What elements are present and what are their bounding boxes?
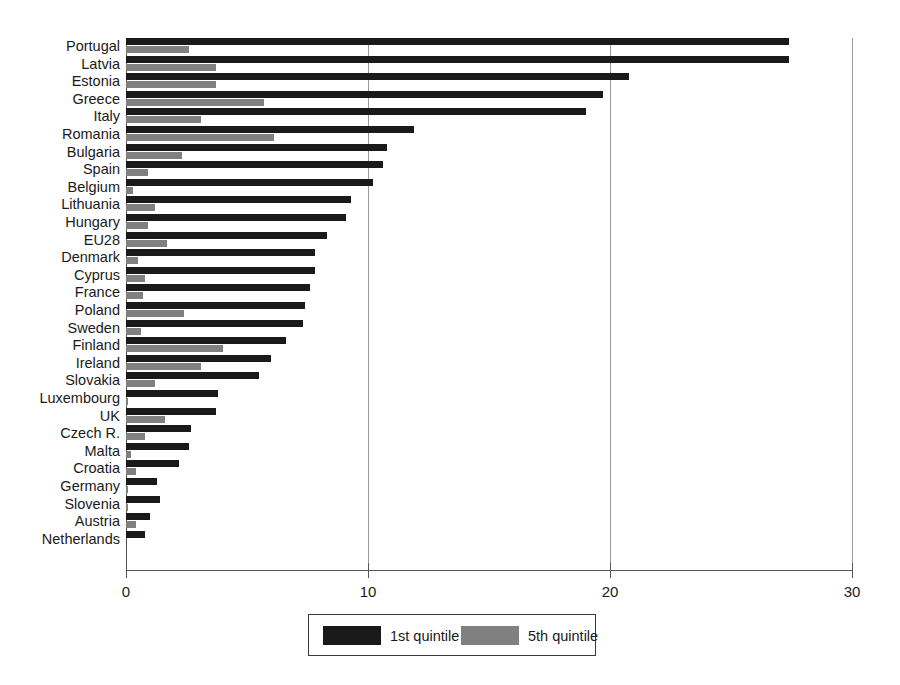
category-label: Croatia	[73, 461, 120, 475]
bar-5th-quintile	[126, 134, 274, 141]
bar-row	[126, 108, 852, 126]
bar-row	[126, 496, 852, 514]
bar-row	[126, 390, 852, 408]
bar-row	[126, 408, 852, 426]
category-label: Belgium	[68, 180, 120, 194]
bar-1st-quintile	[126, 73, 629, 80]
bar-1st-quintile	[126, 425, 191, 432]
bar-5th-quintile	[126, 116, 201, 123]
bar-row	[126, 144, 852, 162]
bar-5th-quintile	[126, 222, 148, 229]
bar-1st-quintile	[126, 144, 387, 151]
bar-row	[126, 179, 852, 197]
category-label: Poland	[75, 303, 120, 317]
bar-1st-quintile	[126, 214, 346, 221]
category-label: Austria	[75, 514, 120, 528]
bar-5th-quintile	[126, 416, 165, 423]
bar-5th-quintile	[126, 521, 136, 528]
gridline-30	[852, 38, 853, 570]
bar-row	[126, 513, 852, 531]
bar-5th-quintile	[126, 486, 128, 493]
bar-1st-quintile	[126, 531, 145, 538]
bar-1st-quintile	[126, 267, 315, 274]
legend-entry: 5th quintile	[461, 626, 598, 645]
bar-5th-quintile	[126, 152, 182, 159]
bar-5th-quintile	[126, 468, 136, 475]
category-label: Spain	[83, 162, 120, 176]
category-label: Finland	[72, 338, 120, 352]
bar-row	[126, 56, 852, 74]
category-label: Portugal	[66, 39, 120, 53]
bar-5th-quintile	[126, 451, 131, 458]
category-label: France	[75, 285, 120, 299]
category-label: Denmark	[61, 250, 120, 264]
legend-swatch	[461, 626, 519, 645]
bar-row	[126, 478, 852, 496]
bar-5th-quintile	[126, 275, 145, 282]
bar-row	[126, 91, 852, 109]
bar-row	[126, 267, 852, 285]
bar-row	[126, 460, 852, 478]
bar-1st-quintile	[126, 91, 603, 98]
bar-5th-quintile	[126, 363, 201, 370]
x-tick-label: 0	[122, 583, 130, 600]
category-label: Slovenia	[64, 497, 120, 511]
bar-5th-quintile	[126, 292, 143, 299]
plot-area	[126, 38, 852, 570]
bar-row	[126, 73, 852, 91]
bar-row	[126, 284, 852, 302]
bar-5th-quintile	[126, 398, 128, 405]
legend-label: 5th quintile	[528, 628, 598, 644]
category-label: UK	[100, 409, 120, 423]
x-tick-mark	[368, 563, 369, 578]
category-label: Czech R.	[60, 426, 120, 440]
x-tick-label: 30	[844, 583, 861, 600]
bar-5th-quintile	[126, 64, 216, 71]
bar-1st-quintile	[126, 478, 157, 485]
x-tick-mark	[126, 563, 127, 578]
bar-1st-quintile	[126, 372, 259, 379]
legend-entry: 1st quintile	[323, 626, 459, 645]
bar-row	[126, 196, 852, 214]
bar-1st-quintile	[126, 408, 216, 415]
category-label: Sweden	[68, 321, 120, 335]
bar-5th-quintile	[126, 310, 184, 317]
x-tick-label: 10	[360, 583, 377, 600]
category-label: Greece	[72, 92, 120, 106]
bar-row	[126, 38, 852, 56]
bar-5th-quintile	[126, 99, 264, 106]
bar-row	[126, 126, 852, 144]
bar-1st-quintile	[126, 443, 189, 450]
category-label: EU28	[84, 233, 120, 247]
category-label: Cyprus	[74, 268, 120, 282]
bar-row	[126, 214, 852, 232]
category-label: Luxembourg	[39, 391, 120, 405]
legend-swatch	[323, 626, 381, 645]
bar-1st-quintile	[126, 126, 414, 133]
x-tick-label: 20	[602, 583, 619, 600]
category-label: Bulgaria	[67, 145, 120, 159]
bar-5th-quintile	[126, 46, 189, 53]
bar-5th-quintile	[126, 433, 145, 440]
bar-1st-quintile	[126, 196, 351, 203]
bar-1st-quintile	[126, 179, 373, 186]
bar-1st-quintile	[126, 161, 383, 168]
bar-row	[126, 161, 852, 179]
chart-legend: 1st quintile5th quintile	[308, 614, 596, 656]
bar-5th-quintile	[126, 257, 138, 264]
category-label: Lithuania	[61, 197, 120, 211]
bar-1st-quintile	[126, 320, 303, 327]
bar-5th-quintile	[126, 240, 167, 247]
bar-1st-quintile	[126, 460, 179, 467]
bar-5th-quintile	[126, 81, 216, 88]
bar-row	[126, 443, 852, 461]
category-label: Ireland	[76, 356, 120, 370]
bar-row	[126, 425, 852, 443]
bar-row	[126, 249, 852, 267]
bar-5th-quintile	[126, 504, 128, 511]
bar-row	[126, 372, 852, 390]
bar-1st-quintile	[126, 355, 271, 362]
bar-1st-quintile	[126, 284, 310, 291]
category-label: Estonia	[72, 74, 120, 88]
bar-5th-quintile	[126, 187, 133, 194]
